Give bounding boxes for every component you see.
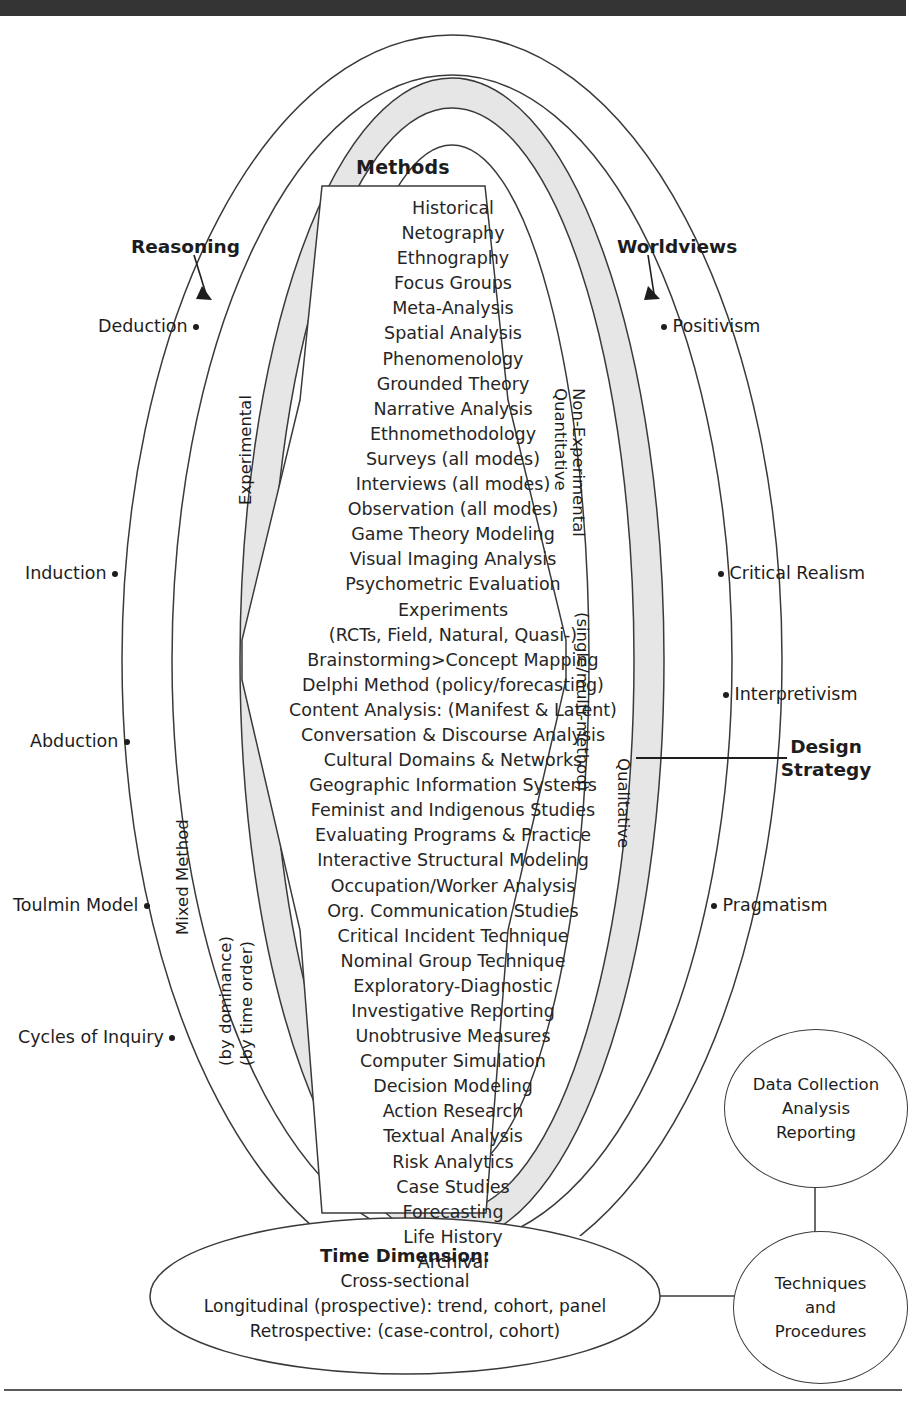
- worldviews-heading: Worldviews: [617, 238, 737, 257]
- worldview-label-critical-realism: Critical Realism: [730, 563, 866, 583]
- reasoning-heading: Reasoning: [131, 238, 240, 257]
- worldview-label-pragmatism: Pragmatism: [723, 895, 828, 915]
- reasoning-item-induction: Induction: [25, 565, 118, 583]
- techniques-line3: Procedures: [775, 1320, 867, 1344]
- method-item: Historical: [0, 196, 906, 221]
- method-item: Nominal Group Technique: [0, 949, 906, 974]
- band-label-mixed-method: Mixed Method: [173, 819, 192, 935]
- method-item: Case Studies: [0, 1175, 906, 1200]
- band-label-non-experimental: Non-Experimental: [569, 388, 588, 537]
- method-item: Forecasting: [0, 1200, 906, 1225]
- method-item: Geographic Information Systems: [0, 773, 906, 798]
- bullet-dot-icon: [718, 571, 724, 577]
- reasoning-label-cycles-of-inquiry: Cycles of Inquiry: [18, 1027, 164, 1047]
- design-strategy-line2: Strategy: [781, 758, 871, 781]
- reasoning-item-deduction: Deduction: [98, 318, 199, 336]
- data-collection-line2: Analysis: [753, 1097, 879, 1121]
- time-dimension-line-1: Cross-sectional: [135, 1269, 675, 1294]
- bullet-dot-icon: [124, 739, 130, 745]
- band-label-by-time-order: (by time order): [237, 941, 256, 1066]
- bullet-dot-icon: [144, 903, 150, 909]
- reasoning-label-abduction: Abduction: [30, 731, 118, 751]
- bullet-dot-icon: [112, 571, 118, 577]
- method-item: Ethnomethodology: [0, 422, 906, 447]
- method-item: Narrative Analysis: [0, 397, 906, 422]
- method-item: Feminist and Indigenous Studies: [0, 798, 906, 823]
- bullet-dot-icon: [661, 324, 667, 330]
- techniques-procedures-circle: Techniques and Procedures: [733, 1231, 908, 1384]
- design-strategy-line1: Design: [781, 735, 871, 758]
- band-label-experimental: Experimental: [236, 395, 255, 505]
- reasoning-item-cycles-of-inquiry: Cycles of Inquiry: [18, 1029, 175, 1047]
- method-item: Conversation & Discourse Analysis: [0, 723, 906, 748]
- techniques-line2: and: [775, 1296, 867, 1320]
- reasoning-label-toulmin-model: Toulmin Model: [13, 895, 138, 915]
- band-label-single-multi-method: (single/multi-method): [573, 612, 592, 791]
- reasoning-item-abduction: Abduction: [30, 733, 130, 751]
- time-dimension-line-3: Retrospective: (case-control, cohort): [135, 1319, 675, 1344]
- worldview-item-positivism: Positivism: [661, 318, 760, 336]
- method-item: Surveys (all modes): [0, 447, 906, 472]
- methods-title: Methods: [356, 156, 450, 178]
- time-dimension-line-2: Longitudinal (prospective): trend, cohor…: [135, 1294, 675, 1319]
- method-item: Grounded Theory: [0, 372, 906, 397]
- bullet-dot-icon: [193, 324, 199, 330]
- method-item: Exploratory-Diagnostic: [0, 974, 906, 999]
- method-item: Cultural Domains & Networks: [0, 748, 906, 773]
- design-strategy-label: Design Strategy: [781, 735, 871, 781]
- method-item: Critical Incident Technique: [0, 924, 906, 949]
- worldview-item-critical-realism: Critical Realism: [718, 565, 865, 583]
- worldview-item-interpretivism: Interpretivism: [723, 686, 857, 704]
- method-item: (RCTs, Field, Natural, Quasi-): [0, 623, 906, 648]
- method-item: Focus Groups: [0, 271, 906, 296]
- time-dimension-title: Time Dimension:: [135, 1243, 675, 1269]
- worldview-label-positivism: Positivism: [673, 316, 761, 336]
- method-item: Investigative Reporting: [0, 999, 906, 1024]
- worldview-label-interpretivism: Interpretivism: [735, 684, 858, 704]
- data-collection-line1: Data Collection: [753, 1073, 879, 1097]
- footer-rule: [4, 1389, 902, 1391]
- method-item: Interviews (all modes): [0, 472, 906, 497]
- method-item: Evaluating Programs & Practice: [0, 823, 906, 848]
- data-collection-circle: Data Collection Analysis Reporting: [724, 1029, 908, 1188]
- method-item: Experiments: [0, 598, 906, 623]
- method-item: Game Theory Modeling: [0, 522, 906, 547]
- band-label-quantitative: Quantitative: [551, 388, 570, 491]
- band-label-qualitative: Qualitative: [614, 758, 633, 848]
- worldview-item-pragmatism: Pragmatism: [711, 897, 828, 915]
- bullet-dot-icon: [723, 692, 729, 698]
- method-item: Brainstorming>Concept Mapping: [0, 648, 906, 673]
- method-item: Interactive Structural Modeling: [0, 848, 906, 873]
- techniques-line1: Techniques: [775, 1272, 867, 1296]
- band-label-by-dominance: (by dominance): [216, 936, 235, 1066]
- reasoning-label-induction: Induction: [25, 563, 107, 583]
- bullet-dot-icon: [169, 1035, 175, 1041]
- method-item: Observation (all modes): [0, 497, 906, 522]
- reasoning-item-toulmin: Toulmin Model: [13, 897, 150, 915]
- bullet-dot-icon: [711, 903, 717, 909]
- reasoning-label-deduction: Deduction: [98, 316, 188, 336]
- time-dimension-block: Time Dimension: Cross-sectional Longitud…: [135, 1243, 675, 1344]
- data-collection-line3: Reporting: [753, 1121, 879, 1145]
- method-item: Phenomenology: [0, 347, 906, 372]
